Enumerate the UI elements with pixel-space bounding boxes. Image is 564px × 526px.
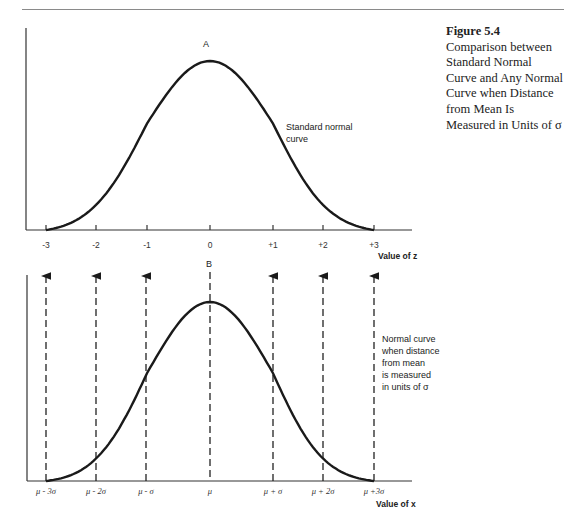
note-line: when distance	[382, 345, 462, 357]
panel-b-label: B	[206, 259, 212, 269]
tick-z-neg3: -3	[42, 240, 50, 250]
tick-x-mu: μ	[208, 486, 212, 496]
standard-normal-curve	[46, 61, 374, 230]
tick-x-mu-3sigma: μ - 3σ	[36, 486, 56, 496]
axis-title-x: Value of x	[376, 499, 416, 509]
axis-title-z: Value of z	[378, 251, 417, 261]
panel-b-axes	[27, 275, 412, 481]
tick-x-mu-2sigma: μ - 2σ	[86, 486, 106, 496]
figure-caption: Figure 5.4 Comparison between Standard N…	[446, 24, 564, 133]
tick-z-pos3: +3	[369, 240, 379, 250]
note-line: from mean	[382, 357, 462, 369]
tick-x-mu+sigma: μ + σ	[264, 486, 282, 496]
tick-z-neg1: -1	[143, 240, 151, 250]
curve-a-label-line2: curve	[286, 134, 308, 144]
tick-x-mu+3sigma: μ +3σ	[364, 486, 385, 496]
figure-caption-text: Comparison between Standard Normal Curve…	[446, 40, 563, 132]
tick-x-mu-sigma: μ - σ	[138, 486, 154, 496]
curve-b-note: Normal curve when distance from mean is …	[382, 333, 462, 393]
note-line: in units of σ	[382, 381, 462, 393]
note-line: Normal curve	[382, 333, 462, 345]
tick-z-pos1: +1	[268, 240, 278, 250]
figure-number: Figure 5.4	[446, 24, 564, 40]
curve-a-label-line1: Standard normal	[286, 122, 353, 132]
panel-a-axes	[26, 28, 412, 230]
tick-z-neg2: -2	[92, 240, 100, 250]
tick-x-mu+2sigma: μ + 2σ	[312, 486, 335, 496]
note-line: is measured	[382, 369, 462, 381]
tick-z-pos2: +2	[318, 240, 328, 250]
panel-a-label: A	[203, 39, 209, 49]
tick-z-0: 0	[208, 240, 213, 250]
